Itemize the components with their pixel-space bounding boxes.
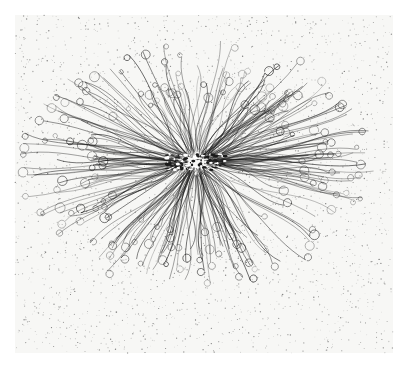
- paper-background: [15, 15, 393, 353]
- ink-drawing: [0, 0, 405, 368]
